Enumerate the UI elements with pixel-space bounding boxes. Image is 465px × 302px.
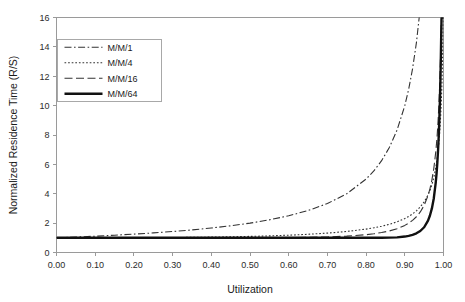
x-tick-label: 1.00 xyxy=(435,260,453,270)
x-tick-label: 0.20 xyxy=(125,260,143,270)
y-tick-label: 10 xyxy=(39,101,49,111)
y-tick-label: 14 xyxy=(39,42,49,52)
x-tick-label: 0.50 xyxy=(241,260,259,270)
x-tick-label: 0.70 xyxy=(319,260,337,270)
y-axis-title: Normalized Residence Time (R/S) xyxy=(7,56,19,215)
x-tick-label: 0.80 xyxy=(357,260,375,270)
y-tick-label: 6 xyxy=(44,160,49,170)
legend-label: M/M/64 xyxy=(108,89,138,99)
y-tick-label: 16 xyxy=(39,13,49,23)
y-tick-label: 4 xyxy=(44,189,49,199)
x-axis-title: Utilization xyxy=(227,283,273,295)
x-tick-label: 0.90 xyxy=(396,260,414,270)
legend-label: M/M/16 xyxy=(108,74,138,84)
chart-legend: M/M/1M/M/4M/M/16M/M/64 xyxy=(58,40,162,102)
x-tick-label: 0.40 xyxy=(203,260,221,270)
legend-label: M/M/4 xyxy=(108,58,133,68)
y-tick-label: 12 xyxy=(39,72,49,82)
chart-figure: 0246810121416 0.000.100.200.300.400.500.… xyxy=(0,0,465,302)
x-tick-label: 0.10 xyxy=(86,260,104,270)
legend-label: M/M/1 xyxy=(108,43,133,53)
x-tick-label: 0.60 xyxy=(280,260,298,270)
y-tick-label: 0 xyxy=(44,248,49,258)
x-tick-label: 0.30 xyxy=(164,260,182,270)
y-tick-label: 2 xyxy=(44,218,49,228)
y-tick-label: 8 xyxy=(44,130,49,140)
residence-time-chart: 0246810121416 0.000.100.200.300.400.500.… xyxy=(0,0,465,302)
x-tick-label: 0.00 xyxy=(48,260,66,270)
